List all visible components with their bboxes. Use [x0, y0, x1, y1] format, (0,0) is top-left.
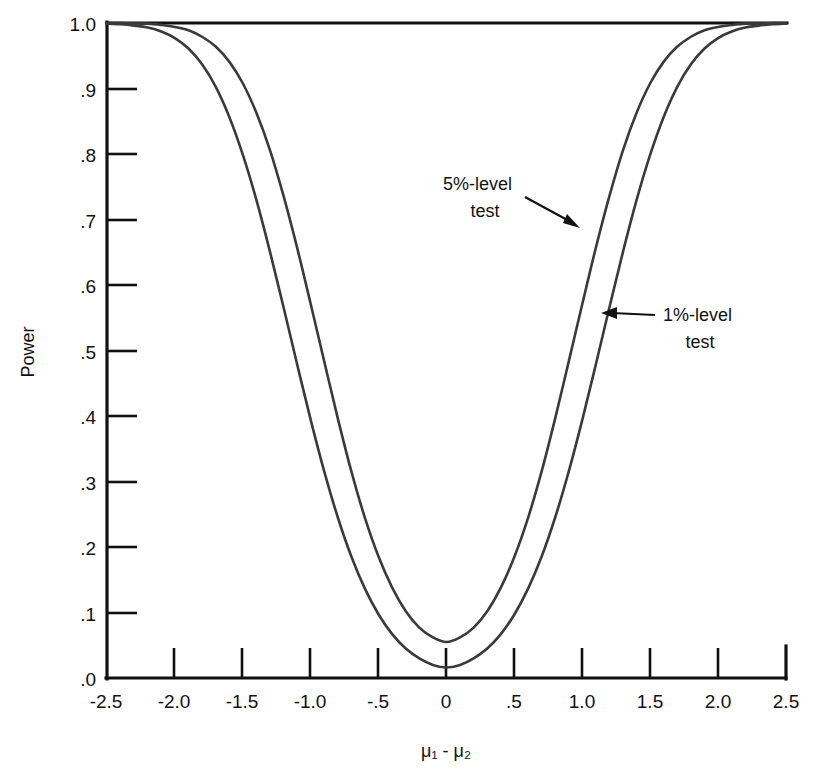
y-axis-title: Power — [18, 326, 38, 377]
y-axis-tick-labels: 1.0 .9 .8 .7 .6 .5 .4 .3 .2 .1 .0 — [70, 14, 97, 690]
power-chart-svg: 1.0 .9 .8 .7 .6 .5 .4 .3 .2 .1 .0 -2.5 — [0, 0, 822, 784]
series-line-1-percent-level — [107, 24, 786, 668]
x-tick-label-2.5: 2.5 — [773, 691, 799, 712]
y-tick-label-0.0: .0 — [80, 669, 96, 690]
annotation-5-percent-level: 5%-level test — [443, 174, 580, 228]
y-tick-label-0.8: .8 — [80, 145, 96, 166]
x-tick-label-1.5: 1.5 — [637, 691, 663, 712]
annotation-5-percent-arrow-head — [563, 214, 580, 228]
y-tick-label-0.2: .2 — [80, 538, 96, 559]
y-tick-label-0.4: .4 — [80, 407, 96, 428]
x-axis-ticks — [174, 648, 718, 678]
y-tick-label-0.7: .7 — [80, 211, 96, 232]
series-line-5-percent-level — [107, 23, 786, 642]
annotation-1-percent-label-line1: 1%-level — [663, 305, 732, 325]
y-tick-label-0.6: .6 — [80, 276, 96, 297]
x-tick-label-2.0: 2.0 — [705, 691, 731, 712]
annotation-5-percent-label-line1: 5%-level — [443, 174, 512, 194]
annotation-1-percent-level: 1%-level test — [601, 305, 732, 352]
y-tick-label-0.5: .5 — [80, 342, 96, 363]
power-curve-figure: 1.0 .9 .8 .7 .6 .5 .4 .3 .2 .1 .0 -2.5 — [0, 0, 822, 784]
x-tick-label-0.5: .5 — [506, 691, 522, 712]
y-tick-label-0.3: .3 — [80, 473, 96, 494]
x-axis-title: μ₁ - μ₂ — [421, 741, 471, 761]
x-tick-label-0: 0 — [441, 691, 452, 712]
x-tick-label--2.0: -2.0 — [158, 691, 191, 712]
annotation-5-percent-arrow-line — [525, 197, 571, 222]
annotation-5-percent-label-line2: test — [470, 201, 499, 221]
y-tick-label-1.0: 1.0 — [70, 14, 96, 35]
x-tick-label-1.0: 1.0 — [569, 691, 595, 712]
chart-series — [107, 23, 786, 668]
y-tick-label-0.1: .1 — [80, 604, 96, 625]
annotation-1-percent-label-line2: test — [685, 332, 714, 352]
y-axis-ticks — [107, 89, 137, 613]
x-tick-label--1.5: -1.5 — [226, 691, 259, 712]
x-tick-label--2.5: -2.5 — [90, 691, 123, 712]
x-tick-label--0.5: -.5 — [367, 691, 389, 712]
x-axis-tick-labels: -2.5 -2.0 -1.5 -1.0 -.5 0 .5 1.0 1.5 2.0… — [90, 691, 800, 712]
y-tick-label-0.9: .9 — [80, 80, 96, 101]
annotation-1-percent-arrow-line — [612, 313, 655, 315]
x-tick-label--1.0: -1.0 — [294, 691, 327, 712]
